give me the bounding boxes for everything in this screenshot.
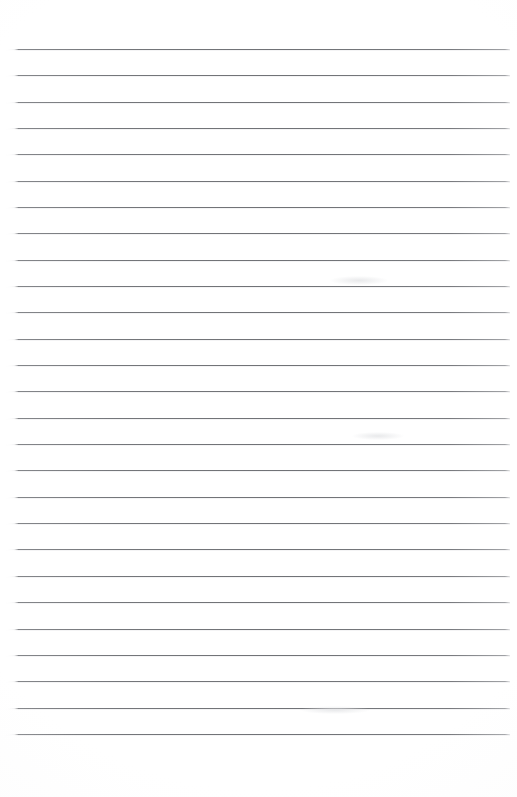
rule-line-24 [6,655,510,656]
rule-line-13 [6,365,510,366]
rule-line-20 [6,549,510,550]
rule-line-21 [6,576,510,577]
rule-line-10 [6,286,510,287]
rule-line-23 [6,629,510,630]
rule-line-27 [6,734,510,735]
rule-line-6 [6,181,510,182]
rule-line-14 [6,391,510,392]
rule-line-9 [6,260,510,261]
rule-line-8 [6,233,510,234]
rule-line-1 [6,49,510,50]
rule-line-22 [6,602,510,603]
rule-line-7 [6,207,510,208]
rule-line-16 [6,444,510,445]
rule-line-4 [6,128,510,129]
rule-line-11 [6,312,510,313]
rule-line-18 [6,497,510,498]
rule-line-15 [6,418,510,419]
rule-line-17 [6,470,510,471]
rule-line-2 [6,75,510,76]
rule-line-12 [6,339,510,340]
lined-paper-page [0,0,517,797]
rule-line-3 [6,102,510,103]
rule-line-26 [6,708,510,709]
rule-line-5 [6,154,510,155]
rule-line-25 [6,681,510,682]
rule-line-19 [6,523,510,524]
ruling-lines-group [0,0,517,797]
